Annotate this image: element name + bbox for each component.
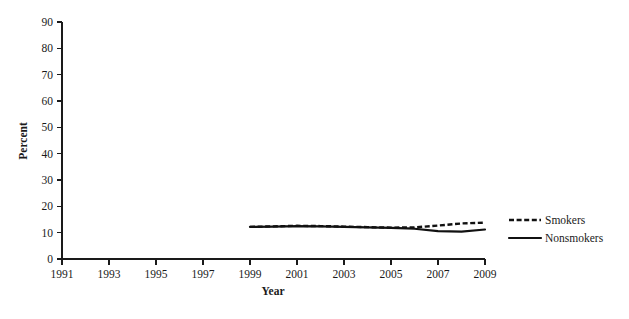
x-tick-label: 2009 [474,268,497,280]
y-tick-label: 70 [42,69,54,81]
y-tick-label: 60 [42,95,54,107]
x-tick-label: 2003 [333,268,356,280]
x-tick-label: 2007 [427,268,450,280]
y-tick-label: 10 [42,227,54,239]
legend-label-nonsmokers: Nonsmokers [545,232,604,244]
legend-label-smokers: Smokers [545,214,586,226]
y-tick-label: 80 [42,42,54,54]
x-tick-label: 2005 [380,268,403,280]
plot-background [0,0,629,319]
chart-container: 0102030405060708090 Percent 199119931995… [0,0,629,319]
y-tick-label: 50 [42,121,54,133]
x-tick-label: 1997 [192,268,215,280]
y-tick-label: 0 [47,253,53,265]
y-tick-label: 20 [42,200,54,212]
x-tick-label: 1995 [145,268,168,280]
x-tick-label: 1993 [98,268,121,280]
y-tick-label: 30 [42,174,54,186]
x-tick-label: 1991 [51,268,74,280]
x-tick-label: 2001 [286,268,309,280]
line-chart: 0102030405060708090 Percent 199119931995… [0,0,629,319]
y-axis-title: Percent [17,122,29,160]
x-tick-label: 1999 [239,268,262,280]
y-tick-label: 90 [42,16,54,28]
x-axis-title: Year [262,285,285,297]
y-tick-label: 40 [42,148,54,160]
